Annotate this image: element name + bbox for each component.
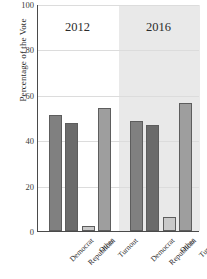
gridline [38, 50, 199, 51]
bar-2012-republican [65, 123, 78, 231]
y-axis-tick-label: 40 [26, 136, 35, 146]
y-axis-tick-label: 0 [30, 227, 34, 237]
group-label-2016: 2016 [146, 20, 171, 35]
bar-chart: Percentage of the Vote 020406080100 Demo… [0, 0, 207, 279]
gridline [38, 96, 199, 97]
y-axis-tick-label: 60 [26, 91, 35, 101]
x-axis-tick-label: Turnout [116, 236, 139, 259]
y-axis-tick-label: 20 [26, 182, 35, 192]
plot-area: 020406080100 [37, 5, 199, 232]
bar-2016-turnout [179, 103, 192, 231]
x-axis-tick-label: Turnout [197, 236, 207, 259]
y-axis-title: Percentage of the Vote [18, 0, 28, 140]
bar-2012-turnout [98, 108, 111, 231]
gridline [38, 187, 199, 188]
bar-2012-other [82, 226, 95, 231]
gridline [38, 141, 199, 142]
y-axis-tick-label: 80 [26, 45, 35, 55]
bar-2016-democrat [130, 121, 143, 231]
gridline [38, 5, 199, 6]
bar-2012-democrat [49, 115, 62, 231]
bar-2016-other [163, 217, 176, 231]
bar-2016-republican [146, 125, 159, 231]
y-axis-tick-label: 100 [21, 0, 34, 10]
group-label-2012: 2012 [65, 20, 90, 35]
